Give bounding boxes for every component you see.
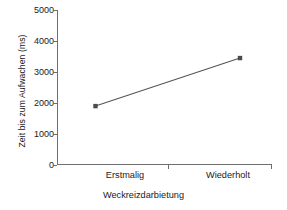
y-tick-label: 4000 [20,37,54,46]
x-axis-tick [168,165,169,169]
x-axis-tick-labels: Erstmalig Wiederholt [57,170,272,184]
series-line [96,58,241,106]
data-point-marker [238,56,242,60]
line-chart: Zeit bis zum Aufwachen (ms) 5000 4000 30… [0,0,287,210]
y-tick-label: 5000 [20,6,54,15]
plot-area [57,10,272,165]
y-tick-label: 1000 [20,130,54,139]
x-axis-title: Weckreizdarbietung [0,190,287,200]
y-axis-tick-labels: 5000 4000 3000 2000 1000 0 [16,0,54,210]
x-axis-tick [271,165,272,169]
y-tick-label: 0 [20,161,54,170]
data-series-layer [57,10,272,165]
y-tick-label: 3000 [20,68,54,77]
y-tick-label: 2000 [20,99,54,108]
x-tick-label-erstmalig: Erstmalig [106,170,144,181]
data-point-marker [93,104,97,108]
y-axis-tick [53,165,57,166]
x-tick-label-wiederholt: Wiederholt [206,170,250,181]
